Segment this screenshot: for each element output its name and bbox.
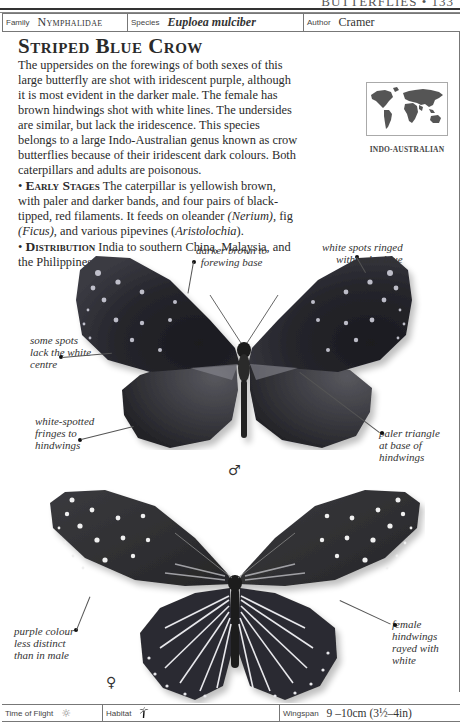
annotation-white-spots: white spots ringed with paler blue (322, 241, 403, 265)
male-symbol: ♂ (228, 462, 241, 478)
author-label: Author (307, 18, 331, 27)
leader-dot (380, 431, 384, 435)
early-stages-text: , and various pipevines ( (54, 224, 175, 238)
palm-tree-icon (139, 704, 149, 722)
sun-icon: ☼ (61, 707, 71, 720)
family-cell: Family Nymphalidae (3, 14, 128, 31)
early-stages-paragraph: • Early Stages The caterpillar is yellow… (18, 178, 300, 239)
plant-name: Aristolochia (175, 224, 236, 238)
species-value: Euploea mulciber (167, 15, 255, 30)
species-label: Species (131, 18, 159, 27)
family-value: Nymphalidae (38, 15, 103, 30)
habitat-label: Habitat (106, 709, 131, 718)
species-cell: Species Euploea mulciber (128, 14, 304, 31)
species-description: The uppersides on the forewings of both … (18, 58, 300, 270)
description-paragraph: The uppersides on the forewings of both … (18, 58, 300, 178)
header-rule (0, 8, 460, 10)
annotation-purple-colour: purple colour less distinct than in male (14, 625, 74, 661)
footer-bar: Time of Flight ☼ Habitat Wingspan 9 –10c… (2, 704, 460, 722)
annotation-some-spots: some spots lack the white centre (30, 334, 91, 370)
map-caption: INDO-AUSTRALIAN (364, 145, 450, 154)
female-symbol: ♀ (106, 674, 116, 690)
habitat-cell: Habitat (103, 705, 280, 721)
time-of-flight-cell: Time of Flight ☼ (2, 705, 103, 721)
annotation-paler-triangle: paler triangle at base of hindwings (379, 427, 440, 463)
early-stages-heading: Early Stages (25, 178, 99, 193)
wingspan-label: Wingspan (283, 709, 319, 718)
plant-name: (Nerium) (228, 209, 273, 223)
female-butterfly-illustration (45, 488, 425, 703)
species-title: Striped Blue Crow (18, 34, 203, 59)
male-butterfly-illustration (60, 240, 430, 450)
distribution-map (366, 82, 448, 136)
taxonomy-bar: Family Nymphalidae Species Euploea mulci… (2, 13, 460, 32)
annotation-darker-brown: darker brown to forewing base (196, 244, 267, 268)
wingspan-cell: Wingspan 9 –10cm (3½–4in) (280, 705, 460, 721)
plant-name: (Ficus) (18, 224, 54, 238)
early-stages-text: , fig (273, 209, 293, 223)
family-label: Family (6, 18, 30, 27)
leader-dot (393, 623, 397, 627)
wingspan-value: 9 –10cm (3½–4in) (327, 707, 412, 719)
annotation-white-spotted: white-spotted fringes to hindwings (35, 415, 94, 451)
author-cell: Author Cramer (304, 14, 460, 31)
annotation-female-hindwings: female hindwings rayed with white (392, 618, 439, 666)
early-stages-text: ). (237, 224, 244, 238)
author-value: Cramer (339, 15, 375, 30)
world-map-icon (367, 83, 447, 135)
time-of-flight-label: Time of Flight (5, 709, 53, 718)
